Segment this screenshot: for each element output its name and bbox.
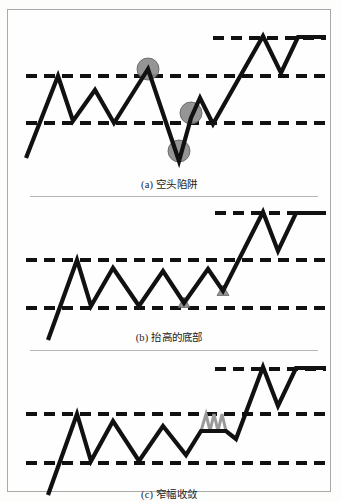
figure-root: (a) 空头陷阱 (b) 抬高的底部 (c) 窄幅收敛 [0, 0, 341, 502]
panel-rising-bottoms: (b) 抬高的底部 [8, 198, 330, 353]
panel-short-squeeze-trap: (a) 空头陷阱 [8, 10, 330, 198]
panel-separator-2 [30, 350, 318, 351]
panel-c-caption: (c) 窄幅收敛 [8, 486, 330, 501]
panel-separator-1 [30, 196, 318, 197]
panel-b-caption: (b) 抬高的底部 [8, 329, 330, 344]
panel-c-chart [8, 353, 330, 502]
panel-narrow-convergence: (c) 窄幅收敛 [8, 353, 330, 502]
panel-a-chart [8, 10, 330, 198]
price-zigzag-line [48, 212, 326, 340]
panel-a-caption: (a) 空头陷阱 [8, 176, 330, 191]
figure-frame: (a) 空头陷阱 (b) 抬高的底部 (c) 窄幅收敛 [7, 9, 331, 492]
narrow-range-zigzag [201, 414, 226, 431]
price-zigzag-line [48, 367, 326, 495]
